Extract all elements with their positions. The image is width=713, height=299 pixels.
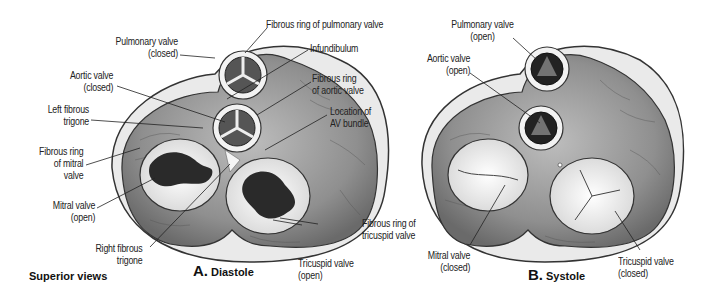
panel-word: Systole — [546, 270, 585, 282]
label-line: Fibrous ring of — [362, 218, 416, 229]
label-line: (closed) — [148, 48, 178, 59]
label-line: Tricuspid valve — [298, 258, 354, 269]
label-right-fibrous-trigone: Right fibroustrigone — [96, 243, 143, 267]
label-fibrous-ring-pulmonary: Fibrous ring of pulmonary valve — [266, 19, 383, 31]
label-aortic-valve-open: Aortic valve(open) — [427, 53, 470, 77]
label-line: Aortic valve — [70, 70, 113, 81]
label-line: AV bundle — [330, 118, 368, 129]
label-line: trigone — [117, 255, 143, 266]
label-line: (open) — [71, 212, 95, 223]
label-mitral-valve-closed: Mitral valve(closed) — [428, 250, 470, 274]
label-line: of aortic valve — [312, 85, 364, 96]
label-location-av-bundle: Location ofAV bundle — [330, 106, 371, 130]
label-line: (closed) — [618, 268, 648, 279]
label-line: Fibrous ring — [312, 73, 356, 84]
label-line: Mitral valve — [53, 200, 95, 211]
label-line: Location of — [330, 106, 371, 117]
label-pulmonary-valve-closed: Pulmonary valve(closed) — [116, 36, 178, 60]
label-line: Right fibrous — [96, 243, 143, 254]
label-line: tricuspid valve — [362, 230, 415, 241]
label-pulmonary-valve-open: Pulmonary valve(open) — [451, 19, 513, 43]
figure-caption: Superior views — [29, 270, 107, 282]
panel-letter: B. — [528, 266, 543, 283]
label-line: Aortic valve — [427, 53, 470, 64]
panel-title-systole: B.Systole — [528, 266, 585, 284]
label-line: valve — [63, 170, 83, 181]
panel-title-diastole: A.Diastole — [193, 262, 254, 280]
label-line: (open) — [298, 270, 322, 281]
label-line: Pulmonary valve — [451, 19, 513, 30]
label-line: Mitral valve — [428, 250, 470, 261]
label-left-fibrous-trigone: Left fibroustrigone — [48, 104, 89, 128]
label-line: (open) — [446, 65, 470, 76]
label-line: (open) — [470, 31, 494, 42]
label-aortic-valve-closed: Aortic valve(closed) — [70, 70, 113, 94]
panel-word: Diastole — [211, 266, 254, 278]
label-line: (closed) — [83, 82, 113, 93]
label-line: trigone — [63, 116, 89, 127]
label-line: of mitral — [53, 158, 83, 169]
label-fibrous-ring-mitral: Fibrous ringof mitralvalve — [39, 146, 83, 182]
label-mitral-valve-open: Mitral valve(open) — [53, 200, 95, 224]
label-tricuspid-valve-closed: Tricuspid valve(closed) — [618, 256, 674, 280]
systole-heart — [422, 46, 684, 262]
label-fibrous-ring-aortic: Fibrous ringof aortic valve — [312, 73, 364, 97]
label-fibrous-ring-tricuspid: Fibrous ring oftricuspid valve — [362, 218, 416, 242]
label-line: Pulmonary valve — [116, 36, 178, 47]
label-line: Left fibrous — [48, 104, 89, 115]
label-infundibulum: Infundibulum — [310, 43, 358, 55]
label-line: Tricuspid valve — [618, 256, 674, 267]
label-line: (closed) — [440, 262, 470, 273]
label-tricuspid-valve-open: Tricuspid valve(open) — [298, 258, 354, 282]
label-line: Fibrous ring — [39, 146, 83, 157]
panel-letter: A. — [193, 262, 208, 279]
